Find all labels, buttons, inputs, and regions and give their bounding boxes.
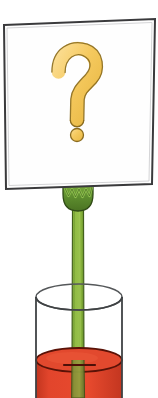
calyx-cup xyxy=(63,186,93,211)
scene-svg xyxy=(0,0,158,398)
question-sign[interactable] xyxy=(4,19,155,189)
question-mark-dot xyxy=(71,129,84,142)
illustration-canvas: Celery stalk with question mark sign in … xyxy=(0,0,158,398)
celery-stem xyxy=(72,200,84,362)
